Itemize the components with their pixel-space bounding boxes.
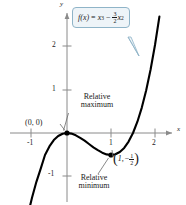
relative-minimum-label-line2: minimum [68,182,120,190]
minimum-coordinate-label: ( 1, − 1 2 ) [113,152,139,166]
relative-minimum-label: Relative minimum [68,174,120,190]
x-tick-label-1: 1 [109,139,113,147]
y-tick-label-1: 1 [52,85,56,93]
origin-coordinate-label: (0, 0) [25,119,42,127]
formula-minus: − [106,13,111,22]
function-graph-figure: y x 2 1 -1 -1 1 2 (0, 0) Relative maximu… [0,0,186,205]
min-coord-x: 1, [118,155,124,163]
y-tick-label-minus-1: -1 [48,170,54,178]
relative-maximum-leader [64,113,69,131]
x-axis [10,131,172,136]
min-coord-close-paren: ) [134,152,139,166]
y-tick-label-2: 2 [52,41,56,49]
formula-equals: = [91,13,96,22]
relative-maximum-label: Relative maximum [70,93,124,109]
formula-callout-box: f(x) = x3 − 3 2 x2 [72,7,130,28]
relative-minimum-leader [98,158,109,174]
x-tick-label-minus-1: -1 [27,139,33,147]
y-axis-label: y [60,1,63,8]
formula-function-name: f(x) [78,13,89,22]
x-axis-label: x [177,126,180,133]
relative-maximum-point [64,130,69,135]
relative-maximum-label-line2: maximum [70,101,124,109]
x-tick-label-2: 2 [152,139,156,147]
